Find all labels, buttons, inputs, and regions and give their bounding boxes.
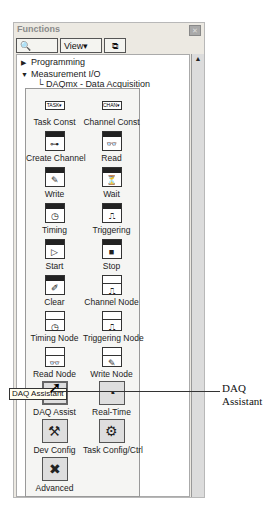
mouse-cursor-icon: ➚ [48,378,61,397]
item-label: Clear [26,297,83,307]
triggering-icon: ⎍ [102,203,122,223]
timing-icon: ◷ [45,203,65,223]
item-label: Triggering Node [83,333,140,343]
item-label: DAQ Assist [26,407,83,417]
callout-line1: DAQ [222,382,262,395]
callout-line [52,391,220,392]
window-title: Functions [17,24,60,34]
item-label: Timing [26,225,83,235]
timing-node-icon: ◷ [45,311,65,331]
palette-item-write[interactable]: ✎Write [26,167,83,203]
item-label: Channel Const [83,117,140,127]
read-icon: 👓 [102,131,122,151]
item-label: Task Config/Ctrl [83,445,140,455]
palette-item-channel-const[interactable]: CHAN▾Channel Const [83,95,140,131]
item-label: Write Node [83,369,140,379]
item-label: Timing Node [26,333,83,343]
search-icon: 🔍 [20,41,31,51]
palette-item-stop[interactable]: ■Stop [83,239,140,275]
item-label: Start [26,261,83,271]
palette-item-dev-config[interactable]: ⚒Dev Config [26,419,83,459]
collapse-icon[interactable]: ▼ [21,68,31,82]
palette-item-advanced[interactable]: ✖Advanced [26,457,83,497]
pin-icon[interactable]: ⧉ [104,38,126,53]
task-config-icon: ⚙ [99,419,125,443]
item-label: Dev Config [26,445,83,455]
palette-item-triggering[interactable]: ⎍Triggering [83,203,140,239]
channel-node-icon: ⎍ [102,275,122,295]
triggering-node-icon: ⎍ [102,311,122,331]
read-node-icon: 👓 [45,347,65,367]
task-const-icon: TASK▾ [45,101,65,110]
palette-item-clear[interactable]: ✐Clear [26,275,83,311]
close-icon[interactable]: ✕ [189,25,201,36]
write-icon: ✎ [45,167,65,187]
palette-item-start[interactable]: ▷Start [26,239,83,275]
item-label: Triggering [83,225,140,235]
palette-item-read[interactable]: 👓Read [83,131,140,167]
create-channel-icon: ⊶ [45,131,65,151]
toolbar: 🔍Search View▾ ⧉ [16,38,202,54]
stop-icon: ■ [102,239,122,259]
item-label: Read [83,153,140,163]
scroll-up-icon[interactable]: ▲ [192,55,204,65]
palette-item-task-const[interactable]: TASK▾Task Const [26,95,83,131]
item-label: Wait [83,189,140,199]
palette-item-task-config[interactable]: ⚙Task Config/Ctrl [83,419,140,459]
search-button[interactable]: 🔍Search [16,38,58,53]
real-time-icon: ◔ [99,381,125,405]
clear-icon: ✐ [45,275,65,295]
palette-item-create-channel[interactable]: ⊶Create Channel [26,131,83,167]
title-bar: Functions ✕ [14,23,204,37]
dev-config-icon: ⚒ [42,419,68,443]
palette-item-channel-node[interactable]: ⎍Channel Node [83,275,140,311]
view-label: View▾ [64,41,88,51]
view-button[interactable]: View▾ [60,38,102,53]
functions-palette-window: Functions ✕ 🔍Search View▾ ⧉ ▶Programming… [13,22,205,498]
item-label: Task Const [26,117,83,127]
item-label: Create Channel [26,153,83,163]
palette-item-write-node[interactable]: ✎Write Node [83,347,140,383]
item-label: Real-Time [83,407,140,417]
item-label: Advanced [26,483,83,493]
write-node-icon: ✎ [102,347,122,367]
vertical-scrollbar[interactable]: ▲ [191,54,204,497]
item-label: Stop [83,261,140,271]
tree-label: Programming [31,57,85,67]
daqmx-palette: TASK▾Task Const CHAN▾Channel Const ⊶Crea… [25,88,140,497]
wait-icon: ⏳ [102,167,122,187]
callout-line2: Assistant [222,395,262,408]
palette-item-timing[interactable]: ◷Timing [26,203,83,239]
callout-label: DAQAssistant [222,382,262,408]
palette-item-triggering-node[interactable]: ⎍Triggering Node [83,311,140,347]
palette-item-wait[interactable]: ⏳Wait [83,167,140,203]
item-label: Channel Node [83,297,140,307]
palette-item-timing-node[interactable]: ◷Timing Node [26,311,83,347]
palette-item-real-time[interactable]: ◔Real-Time [83,381,140,421]
channel-const-icon: CHAN▾ [102,101,122,110]
start-icon: ▷ [45,239,65,259]
palette-tree: ▶Programming ▼Measurement I/O └ DAQmx - … [16,54,190,497]
advanced-icon: ✖ [42,457,68,481]
item-label: Write [26,189,83,199]
